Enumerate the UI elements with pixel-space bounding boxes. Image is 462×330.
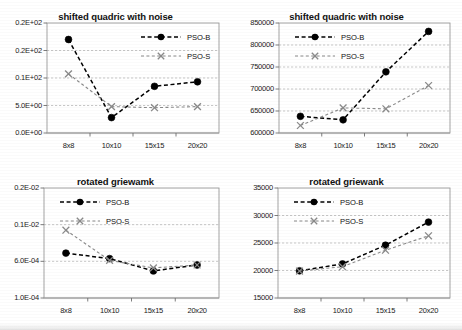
chart-legend: PSO-BPSO-S <box>60 198 129 226</box>
y-axis-tick-label: 1.0E-04 <box>0 293 39 302</box>
x-axis-tick-label: 20x20 <box>175 306 219 315</box>
x-axis-tick-label: 10x10 <box>322 141 365 150</box>
x-axis-tick-label: 10x10 <box>90 141 133 150</box>
y-axis-tick-label: 600000 <box>231 128 274 137</box>
y-axis-tick-label: 6.0E-04 <box>0 256 39 265</box>
chart-panel-bottom-left: rotated griewamkPSO-BPSO-S0.2E-020.1E-02… <box>0 165 231 330</box>
legend-item-pso-s: PSO-S <box>60 217 129 226</box>
data-point-pso-b <box>297 113 304 120</box>
legend-item-pso-b: PSO-B <box>141 33 210 42</box>
data-point-pso-b <box>194 78 201 85</box>
legend-item-pso-b: PSO-B <box>295 33 364 42</box>
data-point-pso-s <box>297 122 304 129</box>
y-axis-tick-label: 15000 <box>231 293 273 302</box>
y-axis-tick-label: 5.0E+00 <box>0 101 42 110</box>
data-point-pso-b <box>151 83 158 90</box>
series-line-pso-b <box>300 222 429 271</box>
data-point-pso-b <box>425 28 432 35</box>
x-axis-tick-label: 8x8 <box>279 141 322 150</box>
x-axis-tick-label: 20x20 <box>407 306 450 315</box>
x-axis-tick-label: 8x8 <box>278 306 321 315</box>
chart-legend: PSO-BPSO-S <box>141 33 210 61</box>
x-axis-tick-label: 8x8 <box>47 141 90 150</box>
y-axis-tick-label: 35000 <box>231 183 273 192</box>
x-axis-tick-label: 20x20 <box>407 141 450 150</box>
y-axis-tick-label: 0.1E-02 <box>0 220 39 229</box>
y-axis-tick-label: 850000 <box>231 18 274 27</box>
legend-item-pso-s: PSO-S <box>141 52 210 61</box>
chart-panel-top-left: shifted quadric with noisePSO-BPSO-S0.2E… <box>0 0 231 165</box>
data-point-pso-s <box>65 71 72 78</box>
x-axis-tick-label: 20x20 <box>176 141 219 150</box>
legend-label: PSO-S <box>340 217 363 226</box>
legend-label: PSO-S <box>341 52 364 61</box>
x-axis-tick-label: 10x10 <box>88 306 132 315</box>
x-axis-tick-label: 15x15 <box>132 306 176 315</box>
y-axis-tick-label: 650000 <box>231 106 274 115</box>
legend-item-pso-s: PSO-S <box>295 52 364 61</box>
y-axis-tick-label: 0.2E+02 <box>0 18 42 27</box>
y-axis-tick-label: 25000 <box>231 238 273 247</box>
chart-panel-bottom-right: rotated griewankPSO-BPSO-S35000300002500… <box>231 165 462 330</box>
data-point-pso-b <box>108 114 115 121</box>
x-axis-tick-label: 10x10 <box>321 306 364 315</box>
y-axis-tick-label: 750000 <box>231 62 274 71</box>
legend-label: PSO-S <box>187 52 210 61</box>
data-point-pso-b <box>383 68 390 75</box>
x-axis-tick-label: 15x15 <box>133 141 176 150</box>
chart-panel-top-right: shifted quadric with noisePSO-BPSO-S8500… <box>231 0 462 165</box>
y-axis-tick-label: 700000 <box>231 84 274 93</box>
series-line-pso-s <box>300 236 429 271</box>
legend-label: PSO-S <box>106 217 129 226</box>
y-axis-tick-label: 0.0E+00 <box>0 128 42 137</box>
legend-label: PSO-B <box>187 33 210 42</box>
chart-legend: PSO-BPSO-S <box>295 33 364 61</box>
chart-grid: shifted quadric with noisePSO-BPSO-S0.2E… <box>0 0 462 330</box>
y-axis-tick-label: 0.1E+02 <box>0 73 42 82</box>
legend-label: PSO-B <box>106 198 129 207</box>
legend-item-pso-b: PSO-B <box>294 198 363 207</box>
data-point-pso-s <box>425 232 432 239</box>
data-point-pso-b <box>63 250 70 257</box>
data-point-pso-s <box>63 227 70 234</box>
y-axis-tick-label: 0.2E+02 <box>0 46 42 55</box>
series-line-pso-s <box>300 86 428 126</box>
legend-item-pso-b: PSO-B <box>60 198 129 207</box>
chart-legend: PSO-BPSO-S <box>294 198 363 226</box>
legend-label: PSO-B <box>340 198 363 207</box>
y-axis-tick-label: 30000 <box>231 211 273 220</box>
data-point-pso-b <box>340 116 347 123</box>
data-point-pso-s <box>425 82 432 89</box>
y-axis-tick-label: 20000 <box>231 266 273 275</box>
series-line-pso-s <box>66 230 197 268</box>
legend-label: PSO-B <box>341 33 364 42</box>
legend-item-pso-s: PSO-S <box>294 217 363 226</box>
x-axis-tick-label: 8x8 <box>44 306 88 315</box>
x-axis-tick-label: 15x15 <box>365 141 408 150</box>
data-point-pso-b <box>425 219 432 226</box>
data-point-pso-s <box>340 105 347 112</box>
x-axis-tick-label: 15x15 <box>364 306 407 315</box>
y-axis-tick-label: 800000 <box>231 40 274 49</box>
data-point-pso-b <box>65 36 72 43</box>
y-axis-tick-label: 0.2E-02 <box>0 183 39 192</box>
series-line-pso-b <box>66 253 197 271</box>
